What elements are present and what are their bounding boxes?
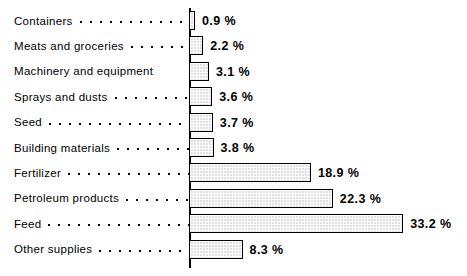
chart-row: Building materials3.8 %	[0, 135, 467, 160]
bar-value-label: 3.7 %	[220, 116, 254, 130]
category-label-block: Building materials	[14, 135, 189, 160]
bar	[189, 113, 213, 132]
dot-leader	[122, 193, 189, 204]
bar-value-label: 22.3 %	[340, 192, 381, 206]
category-label: Sprays and dusts	[14, 91, 111, 103]
bar-value-label: 3.1 %	[216, 65, 250, 79]
category-label: Building materials	[14, 142, 113, 154]
dot-leader	[95, 244, 189, 255]
category-label: Fertilizer	[14, 167, 64, 179]
category-label-block: Feed	[14, 211, 189, 236]
category-label: Machinery and equipment	[14, 65, 156, 77]
category-label-block: Sprays and dusts	[14, 84, 189, 109]
bar-value-label: 3.6 %	[219, 90, 253, 104]
category-label: Meats and groceries	[14, 40, 127, 52]
category-label-block: Other supplies	[14, 237, 189, 262]
dot-leader	[111, 91, 189, 102]
category-label-block: Fertilizer	[14, 160, 189, 185]
bar-value-label: 0.9 %	[202, 14, 236, 28]
category-label-block: Containers	[14, 8, 189, 33]
bar-value-label: 3.8 %	[221, 141, 255, 155]
chart-row: Fertilizer18.9 %	[0, 160, 467, 185]
bar	[189, 214, 403, 233]
bar	[189, 11, 195, 30]
chart-row: Feed33.2 %	[0, 211, 467, 236]
dot-leader	[113, 142, 189, 153]
bar-value-label: 33.2 %	[410, 217, 451, 231]
chart-row: Machinery and equipment3.1 %	[0, 59, 467, 84]
bar	[189, 36, 203, 55]
chart-row: Seed3.7 %	[0, 110, 467, 135]
dot-leader	[64, 167, 189, 178]
horizontal-bar-chart: Containers0.9 %Meats and groceries2.2 %M…	[0, 0, 467, 276]
dot-leader	[45, 117, 189, 128]
category-label-block: Petroleum products	[14, 186, 189, 211]
category-label: Other supplies	[14, 243, 95, 255]
bar-value-label: 2.2 %	[210, 39, 244, 53]
category-label-block: Seed	[14, 110, 189, 135]
chart-row: Other supplies8.3 %	[0, 237, 467, 262]
chart-row: Petroleum products22.3 %	[0, 186, 467, 211]
category-label-block: Meats and groceries	[14, 33, 189, 58]
bar	[189, 240, 243, 259]
bar-value-label: 18.9 %	[318, 166, 359, 180]
dot-leader	[127, 40, 189, 51]
category-label: Feed	[14, 218, 44, 230]
dot-leader	[44, 218, 189, 229]
chart-row: Containers0.9 %	[0, 8, 467, 33]
bar	[189, 138, 214, 157]
category-label-block: Machinery and equipment	[14, 59, 189, 84]
category-label: Containers	[14, 15, 76, 27]
bar	[189, 163, 311, 182]
chart-row: Sprays and dusts3.6 %	[0, 84, 467, 109]
category-label: Petroleum products	[14, 192, 122, 204]
dot-leader	[156, 66, 189, 77]
category-label: Seed	[14, 116, 45, 128]
dot-leader	[76, 15, 189, 26]
bar-value-label: 8.3 %	[250, 243, 284, 257]
bar	[189, 189, 333, 208]
chart-row: Meats and groceries2.2 %	[0, 33, 467, 58]
bar	[189, 87, 212, 106]
bar	[189, 62, 209, 81]
